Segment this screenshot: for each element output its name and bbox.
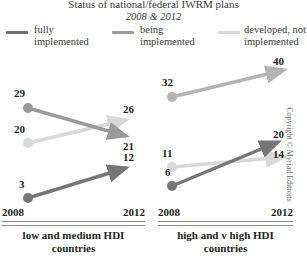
chart-legend: fully implemented being implemented deve… (0, 26, 307, 52)
line-fully-implemented (28, 168, 126, 198)
plot-area-low-medium: 29 20 3 26 21 12 (0, 56, 147, 212)
value-label-3: 3 (19, 179, 25, 190)
marker-start-developed-not-implemented (23, 138, 33, 148)
legend-swatch-icon (218, 31, 240, 34)
chart-title: Status of national/federal IWRM plans (0, 0, 307, 10)
panel-caption: high and v high HDI countries (156, 229, 295, 255)
copyright-notice: Copyright © Myriad Editions (285, 103, 294, 207)
value-label-12: 12 (123, 152, 134, 163)
axis-rule (158, 221, 293, 226)
panel-low-medium-hdi: 29 20 3 26 21 12 2008 2012 low and mediu… (0, 56, 147, 263)
marker-start-fully-implemented (167, 181, 177, 191)
value-label-14: 14 (273, 149, 284, 160)
axis-year-end: 2012 (271, 206, 293, 219)
plot-area-high-vhigh: 32 11 6 40 20 14 (156, 56, 295, 212)
marker-start-developed-not-implemented (167, 92, 177, 102)
axis-rule (2, 221, 145, 226)
value-label-29: 29 (14, 88, 25, 99)
value-label-32: 32 (162, 77, 173, 88)
marker-start-fully-implemented (23, 193, 33, 203)
slope-chart: Status of national/federal IWRM plans 20… (0, 0, 307, 263)
value-label-6: 6 (165, 167, 171, 178)
panel-caption: low and medium HDI countries (0, 229, 147, 255)
value-label-20: 20 (14, 124, 25, 135)
legend-swatch-icon (112, 31, 134, 34)
legend-item-label: fully implemented (34, 24, 104, 48)
value-label-40: 40 (273, 56, 284, 67)
value-label-11: 11 (162, 148, 172, 159)
axis-year-start: 2008 (2, 206, 24, 219)
chart-subtitle: 2008 & 2012 (0, 11, 307, 23)
line-developed-not-implemented (172, 70, 284, 97)
legend-item-label: developed, not implemented (244, 24, 306, 48)
axis-year-start: 2008 (158, 206, 180, 219)
value-label-26: 26 (123, 104, 134, 115)
legend-swatch-icon (6, 31, 28, 34)
marker-start-being-implemented (23, 103, 33, 113)
panel-high-vhigh-hdi: 32 11 6 40 20 14 2008 2012 high and v hi… (156, 56, 295, 263)
legend-item-label: being implemented (140, 24, 210, 48)
value-label-20: 20 (273, 129, 284, 140)
axis-year-end: 2012 (123, 206, 145, 219)
